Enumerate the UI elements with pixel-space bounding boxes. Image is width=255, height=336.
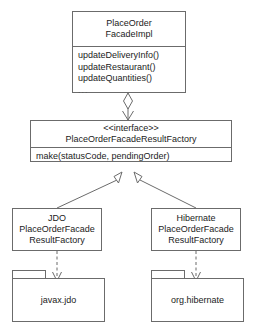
class-name-compartment: Hibernate PlaceOrderFacade ResultFactory xyxy=(152,209,240,250)
operation-update-restaurant: updateRestaurant() xyxy=(78,62,180,74)
class-name-line2: PlaceOrderFacade xyxy=(154,224,238,235)
package-body: org.hibernate xyxy=(151,278,244,322)
class-name-line2: PlaceOrderFacade xyxy=(15,224,99,235)
connector-jdo-generalization xyxy=(57,172,122,208)
generalization-triangle-icon xyxy=(114,172,122,183)
class-name-line1: JDO xyxy=(15,213,99,224)
interface-place-order-facade-result-factory[interactable]: <<interface>> PlaceOrderFacadeResultFact… xyxy=(30,120,232,162)
package-body: javax.jdo xyxy=(12,278,105,322)
package-org-hibernate[interactable]: org.hibernate xyxy=(151,270,244,322)
connector-hibernate-generalization xyxy=(134,172,196,208)
class-name-compartment: PlaceOrder FacadeImpl xyxy=(73,12,185,46)
package-label: javax.jdo xyxy=(41,295,77,306)
class-name-line3: ResultFactory xyxy=(154,235,238,246)
package-javax-jdo[interactable]: javax.jdo xyxy=(12,270,105,322)
connector-facade-uses-factory xyxy=(123,93,134,120)
class-name-compartment: JDO PlaceOrderFacade ResultFactory xyxy=(13,209,101,250)
interface-name: PlaceOrderFacadeResultFactory xyxy=(36,134,226,145)
class-name-line3: ResultFactory xyxy=(15,235,99,246)
interface-stereotype: <<interface>> xyxy=(36,123,226,134)
class-name-line1: PlaceOrder xyxy=(78,18,180,29)
operation-update-quantities: updateQuantities() xyxy=(78,73,180,85)
operation-update-delivery-info: updateDeliveryInfo() xyxy=(78,50,180,62)
package-label: org.hibernate xyxy=(171,295,224,306)
class-hibernate-place-order-facade-result-factory[interactable]: Hibernate PlaceOrderFacade ResultFactory xyxy=(151,208,241,251)
operations-ellipsis: ... xyxy=(78,85,180,97)
class-name-line2: FacadeImpl xyxy=(78,29,180,40)
class-place-order-facade-impl[interactable]: PlaceOrder FacadeImpl updateDeliveryInfo… xyxy=(72,11,186,93)
open-arrowhead-icon xyxy=(123,111,134,120)
class-name-line1: Hibernate xyxy=(154,213,238,224)
uml-class-diagram: PlaceOrder FacadeImpl updateDeliveryInfo… xyxy=(0,0,255,336)
generalization-triangle-icon xyxy=(134,172,142,183)
interface-operations-compartment: make(statusCode, pendingOrder) xyxy=(31,147,231,163)
operation-make: make(statusCode, pendingOrder) xyxy=(36,151,226,163)
class-jdo-place-order-facade-result-factory[interactable]: JDO PlaceOrderFacade ResultFactory xyxy=(12,208,102,251)
class-operations-compartment: updateDeliveryInfo() updateRestaurant() … xyxy=(73,46,185,92)
interface-name-compartment: <<interface>> PlaceOrderFacadeResultFact… xyxy=(31,121,231,147)
